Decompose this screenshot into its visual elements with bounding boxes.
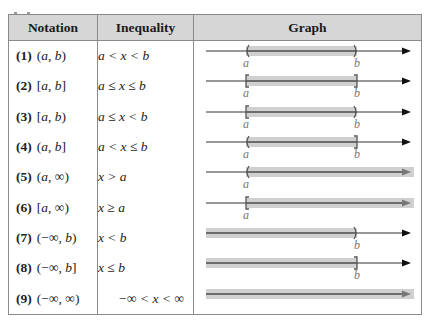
graph-cell: b (194, 253, 422, 283)
table-row-7: (7)(−∞, b) x < b b (9, 223, 422, 253)
inequality-cell: a < x ≤ b (98, 132, 194, 162)
notation-cell: (2)[a, b] (9, 71, 98, 101)
number-line-graph (194, 284, 422, 314)
row-number: (7) (16, 230, 32, 245)
endpoint-label-b: b (354, 86, 360, 100)
arrow-right-icon (402, 108, 411, 115)
inequality-cell: −∞ < x < ∞ (98, 283, 194, 314)
header-row: Notation Inequality Graph (9, 15, 422, 41)
interval-notation: [a, b) (37, 109, 66, 124)
inequality-cell: x ≤ b (98, 253, 194, 283)
inequality-cell: x < b (98, 223, 194, 253)
interval-notation: (−∞, b] (37, 260, 77, 275)
inequality-cell: a ≤ x ≤ b (98, 71, 194, 101)
graph-cell: ab (194, 41, 422, 72)
endpoint-label-b: b (354, 147, 360, 161)
number-line-graph: b (194, 253, 422, 283)
row-number: (8) (16, 260, 32, 275)
number-line-graph: ab (194, 132, 422, 162)
graph-cell: a (194, 192, 422, 222)
table-row-5: (5)(a, ∞) x > a a (9, 162, 422, 192)
notation-cell: (8)(−∞, b] (9, 253, 98, 283)
interval-notation: [a, ∞) (37, 200, 69, 215)
cutoff-text-fragment (14, 0, 74, 3)
row-number: (9) (16, 291, 32, 306)
table-row-9: (9)(−∞, ∞) −∞ < x < ∞ (9, 283, 422, 314)
notation-cell: (7)(−∞, b) (9, 223, 98, 253)
row-number: (6) (16, 200, 32, 215)
interval-notation: (a, b) (37, 48, 66, 63)
graph-cell: ab (194, 71, 422, 101)
endpoint-label-a: a (243, 117, 249, 131)
table-row-2: (2)[a, b] a ≤ x ≤ b ab (9, 71, 422, 101)
arrow-right-icon (402, 78, 411, 85)
endpoint-label-a: a (243, 177, 249, 191)
interval-notation: [a, b] (37, 78, 66, 93)
table-row-3: (3)[a, b) a ≤ x < b ab (9, 102, 422, 132)
notation-cell: (3)[a, b) (9, 102, 98, 132)
endpoint-label-a: a (243, 86, 249, 100)
table-row-6: (6)[a, ∞) x ≥ a a (9, 192, 422, 222)
interval-notation: (−∞, ∞) (37, 291, 80, 306)
notation-cell: (9)(−∞, ∞) (9, 283, 98, 314)
arrow-right-icon (402, 139, 411, 146)
header-graph: Graph (194, 15, 422, 41)
endpoint-label-b: b (354, 117, 360, 131)
graph-cell (194, 283, 422, 314)
number-line-graph: b (194, 223, 422, 253)
endpoint-label-a: a (243, 147, 249, 161)
number-line-graph: a (194, 193, 422, 223)
number-line-graph: ab (194, 41, 422, 71)
row-number: (4) (16, 139, 32, 154)
row-number: (5) (16, 169, 32, 184)
inequality-cell: x > a (98, 162, 194, 192)
interval-notation: (a, b] (37, 139, 66, 154)
row-number: (2) (16, 78, 32, 93)
interval-notation: (−∞, b) (37, 230, 77, 245)
notation-cell: (4)(a, b] (9, 132, 98, 162)
notation-cell: (1)(a, b) (9, 41, 98, 72)
graph-cell: ab (194, 132, 422, 162)
row-number: (3) (16, 109, 32, 124)
endpoint-label-a: a (243, 56, 249, 70)
arrow-right-icon (402, 260, 411, 267)
row-number: (1) (16, 48, 32, 63)
endpoint-label-a: a (243, 208, 249, 222)
header-notation: Notation (9, 15, 98, 41)
number-line-graph: ab (194, 71, 422, 101)
endpoint-label-b: b (354, 56, 360, 70)
arrow-right-icon (402, 229, 411, 236)
table-row-4: (4)(a, b] a < x ≤ b ab (9, 132, 422, 162)
graph-cell: a (194, 162, 422, 192)
notation-cell: (5)(a, ∞) (9, 162, 98, 192)
inequality-cell: x ≥ a (98, 192, 194, 222)
inequality-cell: a < x < b (98, 41, 194, 72)
table-row-8: (8)(−∞, b] x ≤ b b (9, 253, 422, 283)
endpoint-label-b: b (354, 268, 360, 282)
number-line-graph: a (194, 162, 422, 192)
endpoint-label-b: b (354, 238, 360, 252)
arrow-right-icon (402, 48, 411, 55)
graph-cell: ab (194, 102, 422, 132)
header-inequality: Inequality (98, 15, 194, 41)
graph-cell: b (194, 223, 422, 253)
interval-notation: (a, ∞) (37, 169, 69, 184)
notation-cell: (6)[a, ∞) (9, 192, 98, 222)
table-row-1: (1)(a, b) a < x < b ab (9, 41, 422, 72)
interval-notation-table: Notation Inequality Graph (1)(a, b) a < … (8, 14, 422, 315)
inequality-cell: a ≤ x < b (98, 102, 194, 132)
number-line-graph: ab (194, 102, 422, 132)
